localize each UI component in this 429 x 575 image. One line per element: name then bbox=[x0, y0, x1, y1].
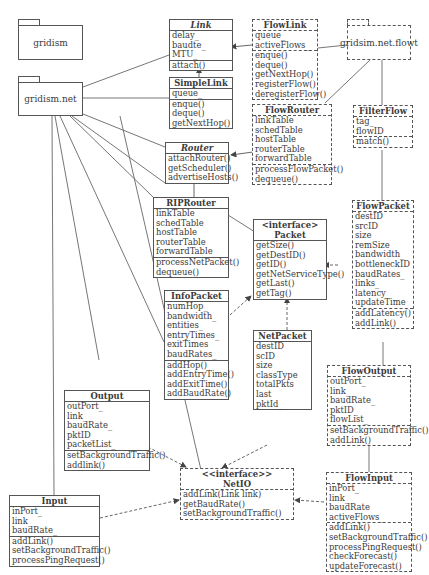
attributes: queue_ activeFlows_ bbox=[253, 31, 317, 50]
methods: processFlowPacket() dequeue() bbox=[253, 164, 331, 184]
uml-class-diagram: gridism gridism.net gridsim.net.flowt Li… bbox=[0, 0, 429, 575]
package-label: gridism.net bbox=[18, 82, 83, 116]
method: getNextHop() bbox=[172, 119, 230, 129]
package-gridsim-net-flowt[interactable]: gridsim.net.flowt bbox=[347, 19, 411, 60]
attribute: baudRates_ bbox=[167, 350, 226, 360]
attribute: forwardTable bbox=[255, 154, 329, 164]
class-flowrouter[interactable]: FlowRouter linkTable schedTable hostTabl… bbox=[252, 104, 332, 185]
methods: setBackgroundTraffic() addLink() bbox=[328, 425, 410, 445]
method: addLink() bbox=[330, 436, 408, 446]
interface-name: Packet bbox=[274, 230, 306, 240]
method: processPingRequest() bbox=[12, 556, 97, 566]
stereotype: <<interface>> bbox=[183, 469, 291, 479]
class-input[interactable]: Input inPort_ link_ baudRate_ addLink() … bbox=[9, 495, 100, 567]
class-filterflow[interactable]: FilterFlow tag_ flowID_ match() bbox=[353, 105, 413, 148]
package-label: gridsim.net.flowt bbox=[347, 25, 411, 60]
methods: addLink() setBackgroundTraffic() process… bbox=[327, 522, 411, 571]
methods: addHop() addEntryTime() addExitTime() ad… bbox=[165, 360, 228, 399]
class-router[interactable]: Router attachRouter() getScheduler() adv… bbox=[165, 142, 229, 184]
attributes: numHop_ bandwidth_ entities_ entryTimes_… bbox=[165, 302, 228, 360]
class-simplelink[interactable]: SimpleLink queue_ enque() deque() getNex… bbox=[169, 77, 233, 129]
class-title: <<interface>> NetIO bbox=[181, 469, 293, 490]
attributes: destID srcID size remSize bandwidth_ bot… bbox=[353, 212, 413, 308]
method: match() bbox=[356, 137, 410, 147]
attribute: forwardTable bbox=[156, 247, 226, 257]
class-output[interactable]: Output outPort_ link_ baudRate_ pktID_ p… bbox=[64, 390, 150, 471]
package-label: gridism bbox=[18, 25, 83, 60]
attribute: flowID_ bbox=[356, 127, 410, 137]
method: deregisterFlow() bbox=[255, 90, 315, 100]
method: advertiseHosts() bbox=[168, 173, 226, 183]
method: getTag() bbox=[256, 289, 324, 299]
class-title: <interface> Packet bbox=[254, 220, 326, 241]
package-gridism-net[interactable]: gridism.net bbox=[18, 76, 83, 116]
method: addlink() bbox=[67, 461, 147, 471]
attribute: updateTime bbox=[355, 298, 411, 308]
methods: setBackgroundTraffic() addlink() bbox=[65, 450, 149, 470]
class-infopacket[interactable]: InfoPacket numHop_ bandwidth_ entities_ … bbox=[164, 290, 229, 400]
attribute: MTU_ bbox=[172, 50, 230, 60]
method: attach() bbox=[172, 61, 230, 71]
methods: addLink(Link link) getBaudRate() setBack… bbox=[181, 490, 293, 519]
methods: attachRouter() getScheduler() advertiseH… bbox=[166, 154, 228, 183]
attribute: activeFlows_ bbox=[255, 41, 315, 51]
attributes: outPort_ link_ baudRate_ pktID_ packetLi… bbox=[65, 402, 149, 450]
attributes: linkTable schedTable hostTable routerTab… bbox=[253, 116, 331, 164]
class-link[interactable]: Link delay_ baudte_ MTU_ attach() bbox=[169, 19, 233, 71]
package-gridism[interactable]: gridism bbox=[18, 19, 83, 60]
methods: getSize() getDestID() getID() getNetServ… bbox=[254, 241, 326, 299]
attributes: queue_ bbox=[170, 89, 232, 99]
methods: enque() deque() getNextHop() bbox=[170, 99, 232, 129]
attributes: linkTable schedTable hostTable routerTab… bbox=[154, 209, 228, 257]
method: setBackgroundTraffic() bbox=[183, 509, 291, 519]
class-flowoutput[interactable]: FlowOutput outPort_ link_ baudRate_ pktI… bbox=[327, 365, 411, 446]
interface-packet[interactable]: <interface> Packet getSize() getDestID()… bbox=[253, 219, 327, 300]
method: dequeue() bbox=[255, 175, 329, 185]
attribute: activeFlows_ bbox=[329, 513, 409, 523]
attribute: baudRate_ bbox=[12, 526, 97, 536]
attributes: delay_ baudte_ MTU_ bbox=[170, 31, 232, 60]
methods: attach() bbox=[170, 60, 232, 71]
attributes: inPort_ link_ baudRate activeFlows_ bbox=[327, 484, 411, 522]
method: updateForecast() bbox=[329, 562, 409, 572]
class-flowinput[interactable]: FlowInput inPort_ link_ baudRate activeF… bbox=[326, 472, 412, 572]
methods: addLatency() addLink() bbox=[353, 308, 413, 328]
methods: processNetPacket() dequeue() bbox=[154, 257, 228, 277]
methods: enque() deque() getNextHop() registerFlo… bbox=[253, 50, 317, 99]
methods: match() bbox=[354, 136, 412, 147]
attribute: packetList_ bbox=[67, 440, 147, 450]
attributes: outPort_ link_ baudRate_ pktID_ flowList… bbox=[328, 377, 410, 425]
interface-name: NetIO bbox=[223, 479, 251, 489]
stereotype: <interface> bbox=[256, 220, 324, 230]
method: addLink() bbox=[355, 319, 411, 329]
class-netpacket[interactable]: NetPacket destID scID size classType tot… bbox=[253, 330, 312, 410]
attributes: inPort_ link_ baudRate_ bbox=[10, 507, 99, 536]
attribute: queue_ bbox=[172, 89, 230, 99]
attributes: tag_ flowID_ bbox=[354, 117, 412, 136]
methods: addLink() setBackgroundTraffic() process… bbox=[10, 536, 99, 566]
attribute: pktId_ bbox=[256, 400, 309, 410]
class-flowpacket[interactable]: FlowPacket destID srcID size remSize ban… bbox=[352, 200, 414, 329]
method: dequeue() bbox=[156, 268, 226, 278]
attributes: destID scID size classType totalPkts las… bbox=[254, 342, 311, 409]
class-riprouter[interactable]: RIPRouter linkTable schedTable hostTable… bbox=[153, 197, 229, 278]
interface-netio[interactable]: <<interface>> NetIO addLink(Link link) g… bbox=[180, 468, 294, 520]
class-flowlink[interactable]: FlowLink queue_ activeFlows_ enque() deq… bbox=[252, 19, 318, 100]
attribute: flowList_ bbox=[330, 415, 408, 425]
method: addBaudRate() bbox=[167, 389, 226, 399]
